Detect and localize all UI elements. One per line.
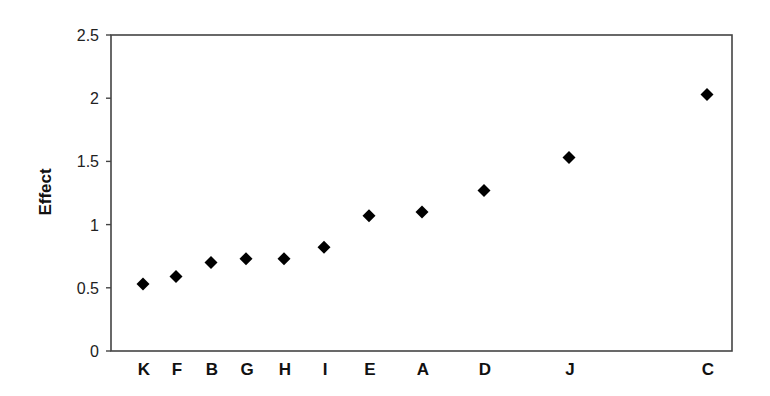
y-tick-label: 0.5 xyxy=(77,280,99,297)
diamond-marker-J xyxy=(563,151,576,164)
y-axis-title: Effect xyxy=(36,168,55,216)
diamond-marker-A xyxy=(416,205,429,218)
x-category-label: H xyxy=(279,360,291,379)
x-category-label: E xyxy=(364,360,375,379)
x-category-label: F xyxy=(172,360,182,379)
x-category-label: C xyxy=(702,360,714,379)
x-category-label: K xyxy=(138,360,151,379)
y-tick-label: 1 xyxy=(90,217,99,234)
x-category-label: J xyxy=(565,360,574,379)
y-axis: 00.511.522.5 xyxy=(77,27,111,360)
diamond-marker-B xyxy=(205,256,218,269)
x-category-label: G xyxy=(240,360,253,379)
diamond-marker-G xyxy=(240,252,253,265)
y-tick-label: 2.5 xyxy=(77,27,99,44)
x-category-label: B xyxy=(206,360,218,379)
data-points xyxy=(137,88,714,291)
y-tick-label: 1.5 xyxy=(77,153,99,170)
diamond-marker-H xyxy=(278,252,291,265)
diamond-marker-F xyxy=(170,270,183,283)
x-category-label: I xyxy=(323,360,328,379)
diamond-marker-E xyxy=(363,209,376,222)
y-axis-title-text: Effect xyxy=(36,168,55,216)
x-category-label: A xyxy=(417,360,429,379)
diamond-marker-K xyxy=(137,278,150,291)
y-tick-label: 2 xyxy=(90,90,99,107)
plot-area xyxy=(111,35,732,351)
plot-border xyxy=(111,35,732,351)
diamond-marker-C xyxy=(701,88,714,101)
x-category-label: D xyxy=(479,360,491,379)
y-tick-label: 0 xyxy=(90,343,99,360)
effect-scatter-chart: Effect 00.511.522.5 KFBGHIEADJC xyxy=(0,0,770,396)
x-axis-category-labels: KFBGHIEADJC xyxy=(138,360,714,379)
diamond-marker-D xyxy=(478,184,491,197)
diamond-marker-I xyxy=(318,241,331,254)
